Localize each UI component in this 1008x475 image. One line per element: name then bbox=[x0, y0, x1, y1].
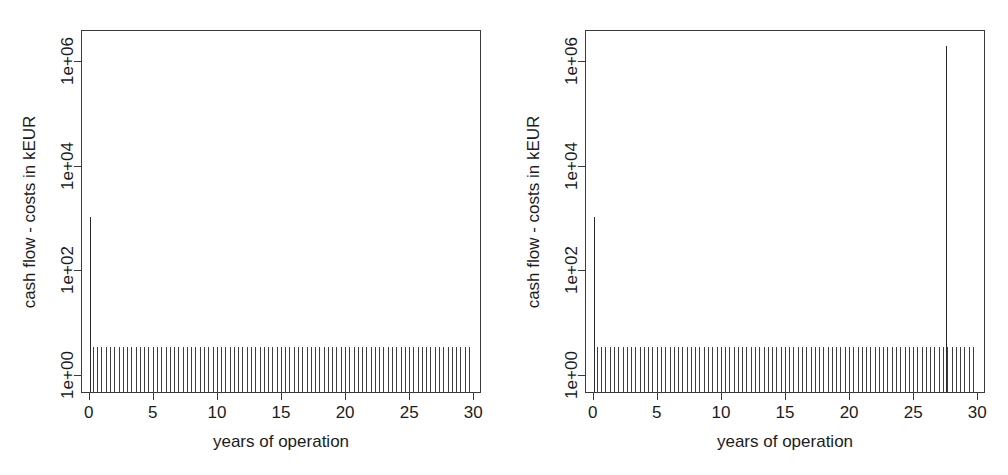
x-tick-label: 20 bbox=[840, 403, 859, 423]
panel-right: cash flow - costs in kEUR 1e+001e+021e+0… bbox=[504, 0, 1008, 475]
bar-recurring bbox=[943, 347, 944, 392]
y-axis-title-right-text: cash flow - costs in kEUR bbox=[524, 115, 544, 308]
bar-recurring bbox=[862, 347, 863, 392]
bar-recurring bbox=[101, 347, 102, 392]
bar-recurring bbox=[221, 347, 222, 392]
x-tick bbox=[593, 393, 594, 400]
bar-initial-investment bbox=[90, 217, 91, 392]
bar-recurring bbox=[131, 347, 132, 392]
y-tick-label: 1e+04 bbox=[58, 142, 78, 190]
bar-recurring bbox=[858, 347, 859, 392]
bar-recurring bbox=[887, 347, 888, 392]
bar-recurring bbox=[272, 347, 273, 392]
x-tick bbox=[657, 393, 658, 400]
bar-recurring bbox=[849, 347, 850, 392]
bar-recurring bbox=[285, 347, 286, 392]
bar-recurring bbox=[277, 347, 278, 392]
bar-recurring bbox=[930, 347, 931, 392]
x-tick bbox=[281, 393, 282, 400]
bar-recurring bbox=[187, 347, 188, 392]
bar-recurring bbox=[853, 347, 854, 392]
plot-area-right bbox=[586, 31, 984, 392]
bar-recurring bbox=[302, 347, 303, 392]
bar-recurring bbox=[383, 347, 384, 392]
bar-recurring bbox=[627, 347, 628, 392]
bar-recurring bbox=[652, 347, 653, 392]
bar-recurring bbox=[695, 347, 696, 392]
bar-recurring bbox=[934, 347, 935, 392]
plot-area-left bbox=[82, 31, 480, 392]
x-tick bbox=[217, 393, 218, 400]
bar-recurring bbox=[200, 347, 201, 392]
x-tick bbox=[473, 393, 474, 400]
bar-recurring bbox=[332, 347, 333, 392]
y-axis-title-left-text: cash flow - costs in kEUR bbox=[20, 115, 40, 308]
bar-recurring bbox=[909, 347, 910, 392]
bar-recurring bbox=[157, 347, 158, 392]
bar-recurring bbox=[401, 347, 402, 392]
y-tick-label: 1e+00 bbox=[58, 351, 78, 399]
bar-recurring bbox=[939, 347, 940, 392]
bar-recurring bbox=[917, 347, 918, 392]
bar-recurring bbox=[819, 347, 820, 392]
bar-recurring bbox=[623, 347, 624, 392]
bar-recurring bbox=[802, 347, 803, 392]
bar-recurring bbox=[255, 347, 256, 392]
bar-recurring bbox=[217, 347, 218, 392]
bar-recurring bbox=[106, 347, 107, 392]
bar-recurring bbox=[913, 347, 914, 392]
bar-recurring bbox=[789, 347, 790, 392]
bar-recurring bbox=[422, 347, 423, 392]
bar-recurring bbox=[708, 347, 709, 392]
bar-recurring bbox=[405, 347, 406, 392]
y-tick-label: 1e+04 bbox=[562, 142, 582, 190]
bar-recurring bbox=[234, 347, 235, 392]
bar-recurring bbox=[375, 347, 376, 392]
bar-recurring bbox=[798, 347, 799, 392]
bar-recurring bbox=[811, 347, 812, 392]
bar-recurring bbox=[213, 347, 214, 392]
bar-recurring bbox=[870, 347, 871, 392]
bar-recurring bbox=[823, 347, 824, 392]
bar-recurring bbox=[247, 347, 248, 392]
bar-recurring bbox=[153, 347, 154, 392]
bar-recurring bbox=[242, 347, 243, 392]
x-tick-label: 10 bbox=[207, 403, 226, 423]
bar-recurring bbox=[195, 347, 196, 392]
bar-recurring bbox=[704, 347, 705, 392]
bar-recurring bbox=[191, 347, 192, 392]
x-tick bbox=[89, 393, 90, 400]
bar-recurring bbox=[883, 347, 884, 392]
y-axis-title-right: cash flow - costs in kEUR bbox=[524, 30, 544, 393]
bar-recurring bbox=[892, 347, 893, 392]
bar-recurring bbox=[776, 347, 777, 392]
bar-recurring bbox=[230, 347, 231, 392]
bar-recurring bbox=[238, 347, 239, 392]
bar-recurring bbox=[430, 347, 431, 392]
bar-recurring bbox=[97, 347, 98, 392]
bar-recurring bbox=[759, 347, 760, 392]
bar-decommissioning bbox=[946, 46, 947, 392]
bar-recurring bbox=[742, 347, 743, 392]
bar-recurring bbox=[264, 347, 265, 392]
bar-recurring bbox=[635, 347, 636, 392]
bar-recurring bbox=[896, 347, 897, 392]
plot-frame-right bbox=[585, 30, 985, 393]
bar-recurring bbox=[362, 347, 363, 392]
bar-recurring bbox=[358, 347, 359, 392]
bar-recurring bbox=[952, 347, 953, 392]
bar-recurring bbox=[465, 347, 466, 392]
bar-recurring bbox=[448, 347, 449, 392]
bar-recurring bbox=[396, 347, 397, 392]
bar-recurring bbox=[349, 347, 350, 392]
bar-recurring bbox=[768, 347, 769, 392]
bar-recurring bbox=[114, 347, 115, 392]
x-tick bbox=[345, 393, 346, 400]
x-tick-label: 15 bbox=[776, 403, 795, 423]
x-tick bbox=[721, 393, 722, 400]
bar-recurring bbox=[225, 347, 226, 392]
bar-recurring bbox=[947, 347, 948, 392]
bar-recurring bbox=[866, 347, 867, 392]
x-tick bbox=[977, 393, 978, 400]
bar-recurring bbox=[879, 347, 880, 392]
